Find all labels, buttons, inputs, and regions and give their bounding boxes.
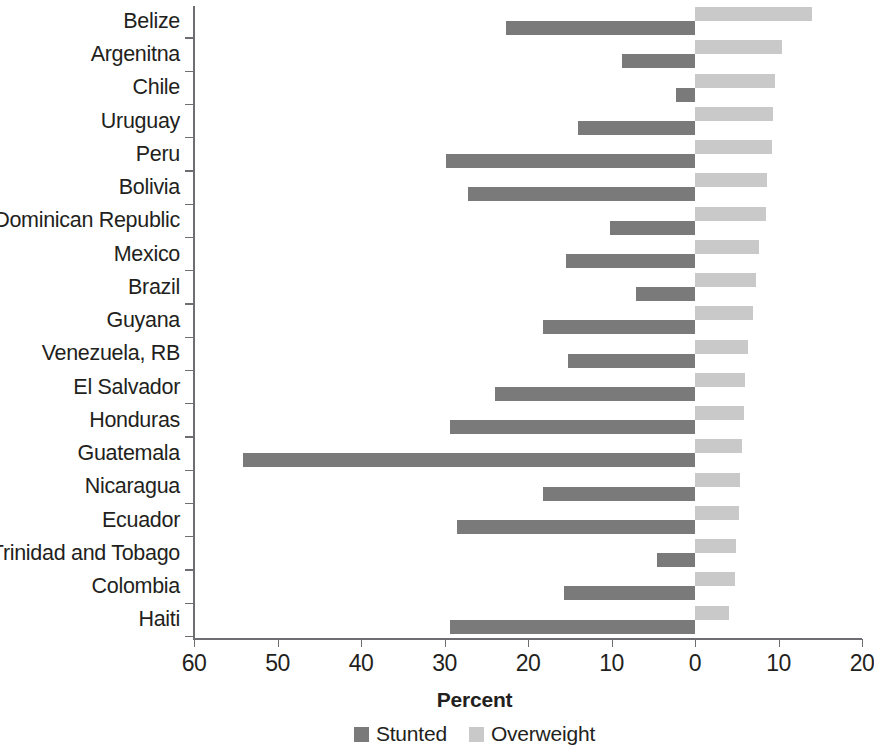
bar-stunted — [566, 254, 695, 268]
bar-stunted — [450, 420, 695, 434]
x-axis-tick-label: 10 — [599, 650, 624, 677]
bar-overweight — [695, 506, 739, 520]
category-label: Brazil — [128, 277, 180, 299]
bar-overweight — [695, 606, 729, 620]
bar-row: Mexico — [0, 239, 873, 271]
x-axis-tick — [361, 639, 362, 647]
bar-row: Bolivia — [0, 172, 873, 204]
bar-row: Chile — [0, 73, 873, 105]
legend-label-overweight: Overweight — [491, 722, 595, 746]
category-label: Venezuela, RB — [42, 344, 180, 366]
bar-row: Trinidad and Tobago — [0, 538, 873, 570]
x-axis-title-text: Percent — [437, 688, 513, 711]
bar-overweight — [695, 439, 742, 453]
x-axis-tick — [695, 639, 696, 647]
bar-stunted — [468, 187, 695, 201]
bar-stunted — [657, 553, 695, 567]
x-axis-tick-label: 60 — [182, 650, 207, 677]
bar-row: Peru — [0, 139, 873, 171]
bar-stunted — [578, 121, 695, 135]
bar-overweight — [695, 473, 740, 487]
bar-stunted — [622, 54, 695, 68]
bar-overweight — [695, 7, 812, 21]
bar-stunted — [446, 154, 695, 168]
category-label: Peru — [136, 144, 180, 166]
x-axis-tick-label: 30 — [432, 650, 457, 677]
x-axis-tick — [528, 639, 529, 647]
category-label: Argenitna — [91, 44, 180, 66]
bar-overweight — [695, 140, 772, 154]
bar-row: Guatemala — [0, 438, 873, 470]
bar-stunted — [457, 520, 695, 534]
bar-row: Uruguay — [0, 106, 873, 138]
x-axis-tick — [445, 639, 446, 647]
plot-area: 60504030201001020 BelizeArgenitnaChileUr… — [0, 0, 873, 640]
bar-stunted — [495, 387, 695, 401]
category-label: Dominican Republic — [0, 211, 180, 233]
bar-stunted — [568, 354, 695, 368]
x-axis-tick — [862, 639, 863, 647]
x-axis-title: Percent — [0, 688, 873, 712]
legend-item-stunted: Stunted — [354, 722, 447, 746]
legend-item-overweight: Overweight — [469, 722, 595, 746]
bar-overweight — [695, 406, 744, 420]
category-label: El Salvador — [73, 377, 180, 399]
category-label: Honduras — [89, 410, 180, 432]
bar-row: Ecuador — [0, 505, 873, 537]
legend: Stunted Overweight — [0, 722, 873, 746]
x-axis-tick-label: 40 — [349, 650, 374, 677]
bar-row: Honduras — [0, 405, 873, 437]
bar-overweight — [695, 173, 767, 187]
bar-stunted — [636, 287, 695, 301]
bar-stunted — [676, 88, 695, 102]
bar-stunted — [564, 586, 695, 600]
bar-row: Haiti — [0, 605, 873, 637]
category-label: Uruguay — [101, 111, 180, 133]
category-label: Guatemala — [78, 443, 180, 465]
x-axis-tick-label: 50 — [265, 650, 290, 677]
category-label: Ecuador — [102, 510, 180, 532]
bar-overweight — [695, 107, 773, 121]
legend-swatch-stunted-icon — [354, 727, 369, 742]
bar-row: El Salvador — [0, 372, 873, 404]
bar-overweight — [695, 306, 753, 320]
bar-stunted — [610, 221, 695, 235]
bar-overweight — [695, 240, 759, 254]
bar-overweight — [695, 340, 748, 354]
bar-row: Brazil — [0, 272, 873, 304]
bar-row: Argenitna — [0, 39, 873, 71]
x-axis-tick — [194, 639, 195, 647]
bar-overweight — [695, 40, 782, 54]
x-axis-tick-label: 10 — [766, 650, 791, 677]
bar-row: Venezuela, RB — [0, 339, 873, 371]
x-axis-tick-label: 20 — [850, 650, 874, 677]
bar-overweight — [695, 572, 735, 586]
bar-overweight — [695, 74, 775, 88]
x-axis-tick — [612, 639, 613, 647]
bar-row: Guyana — [0, 305, 873, 337]
bar-overweight — [695, 273, 756, 287]
category-label: Chile — [133, 78, 181, 100]
category-label: Belize — [123, 11, 180, 33]
category-label: Guyana — [106, 310, 180, 332]
bar-row: Nicaragua — [0, 472, 873, 504]
bar-row: Colombia — [0, 571, 873, 603]
bar-overweight — [695, 373, 745, 387]
legend-swatch-overweight-icon — [469, 727, 484, 742]
x-axis-tick-label: 0 — [689, 650, 701, 677]
x-axis-tick — [779, 639, 780, 647]
bar-row: Belize — [0, 6, 873, 38]
bar-stunted — [543, 487, 695, 501]
bar-stunted — [506, 21, 695, 35]
category-label: Nicaragua — [85, 477, 180, 499]
bar-stunted — [450, 620, 695, 634]
legend-label-stunted: Stunted — [376, 722, 447, 746]
category-label: Haiti — [138, 610, 180, 632]
bar-overweight — [695, 207, 766, 221]
bar-stunted — [243, 453, 695, 467]
category-label: Colombia — [92, 576, 180, 598]
category-label: Bolivia — [119, 177, 180, 199]
x-axis-tick-label: 20 — [516, 650, 541, 677]
x-axis-tick — [278, 639, 279, 647]
